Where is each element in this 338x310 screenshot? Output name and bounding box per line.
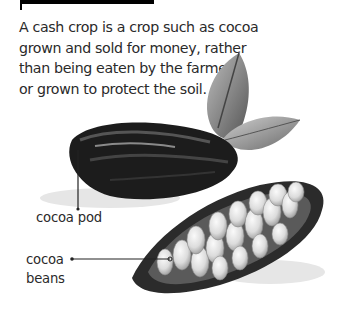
cocoa-pod-label: cocoa pod xyxy=(36,208,102,227)
leaf-icon xyxy=(207,53,300,150)
cocoa-pod-icon xyxy=(69,123,238,200)
cocoa-beans-label: cocoa beans xyxy=(26,250,86,288)
beans-label-line: beans xyxy=(26,269,86,288)
beans-label-line: cocoa xyxy=(26,250,86,269)
